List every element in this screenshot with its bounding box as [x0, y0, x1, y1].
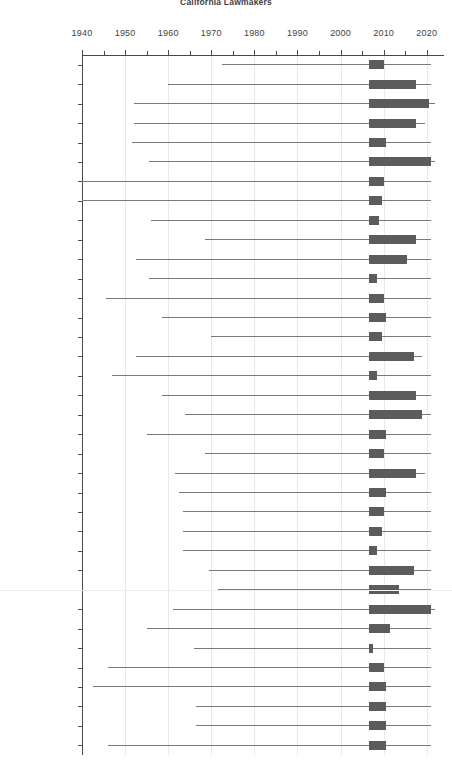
x-axis-tick-label-1950: 1950 — [105, 28, 145, 38]
box[interactable] — [369, 80, 416, 89]
chart-row[interactable]: FEUER — [0, 308, 362, 327]
chart-row[interactable]: SALAS — [0, 658, 362, 677]
chart-row[interactable]: ANDERSON — [0, 74, 362, 93]
chart-row[interactable]: PORTANTINO — [0, 599, 362, 618]
box[interactable] — [369, 507, 384, 516]
whisker — [149, 278, 431, 279]
box[interactable] — [369, 216, 380, 225]
box[interactable] — [369, 157, 431, 166]
chart-row[interactable]: JEFFRIES — [0, 502, 362, 521]
x-axis-tick-label-1970: 1970 — [191, 28, 231, 38]
box[interactable] — [369, 469, 416, 478]
x-axis-tick-label-2020: 2020 — [407, 28, 447, 38]
box[interactable] — [369, 138, 386, 147]
box[interactable] — [369, 255, 408, 264]
whisker — [112, 375, 431, 376]
box[interactable] — [369, 644, 373, 653]
box[interactable] — [369, 235, 416, 244]
chart-row[interactable]: COOK — [0, 191, 362, 210]
x-axis-tick-minor-2005 — [362, 51, 363, 55]
chart-row[interactable]: DESAULNIER — [0, 249, 362, 268]
box[interactable] — [369, 741, 386, 750]
chart-row[interactable]: GALGIANI — [0, 405, 362, 424]
whisker — [147, 434, 431, 435]
whisker — [179, 492, 431, 493]
box[interactable] — [369, 430, 386, 439]
whisker — [132, 142, 432, 143]
x-axis-tick-major-2020 — [427, 50, 428, 55]
x-axis-tick-label-2000: 2000 — [321, 28, 361, 38]
chart-row[interactable]: PRICE JR. — [0, 619, 362, 638]
chart-row[interactable]: HERNANDEZ — [0, 463, 362, 482]
whisker — [196, 725, 431, 726]
box[interactable] — [369, 99, 429, 108]
chart-row[interactable]: GARRICK — [0, 424, 362, 443]
chart-root: California Lawmakers 1940195019601970198… — [0, 0, 452, 770]
chart-row[interactable]: DUVALL — [0, 269, 362, 288]
box[interactable] — [369, 702, 386, 711]
whisker — [183, 550, 431, 551]
chart-row[interactable]: FURUTANI — [0, 366, 362, 385]
box[interactable] — [369, 352, 414, 361]
chart-row[interactable]: SOLORIO — [0, 716, 362, 735]
chart-row[interactable]: HAYASHI — [0, 444, 362, 463]
box[interactable] — [369, 721, 386, 730]
chart-row[interactable]: DAVIS — [0, 211, 362, 230]
chart-row[interactable]: BEALL — [0, 94, 362, 113]
box[interactable] — [369, 119, 416, 128]
whisker — [205, 453, 431, 454]
chart-row[interactable]: SWANSON — [0, 736, 362, 755]
whisker — [211, 336, 431, 337]
box[interactable] — [369, 274, 378, 283]
chart-row[interactable]: DE LEÓN — [0, 230, 362, 249]
box[interactable] — [369, 313, 386, 322]
chart-row[interactable]: ADAMS — [0, 55, 362, 74]
box[interactable] — [369, 410, 423, 419]
box[interactable] — [369, 391, 416, 400]
chart-row[interactable]: MENDOZA — [0, 561, 362, 580]
box[interactable] — [369, 682, 386, 691]
whisker — [222, 64, 431, 65]
horizontal-rule — [0, 590, 452, 591]
whisker — [183, 531, 431, 532]
chart-row[interactable]: BROWNLEY — [0, 133, 362, 152]
chart-row[interactable]: MA — [0, 541, 362, 560]
chart-row[interactable]: CABALLERO — [0, 152, 362, 171]
box[interactable] — [369, 488, 386, 497]
x-axis-tick-major-2010 — [384, 50, 385, 55]
box[interactable] — [369, 546, 378, 555]
whisker — [196, 706, 431, 707]
box[interactable] — [369, 566, 414, 575]
box[interactable] — [369, 60, 384, 69]
box[interactable] — [369, 177, 384, 186]
whisker — [151, 220, 431, 221]
box[interactable] — [369, 663, 384, 672]
x-axis-tick-minor-2015 — [405, 51, 406, 55]
box[interactable] — [369, 371, 378, 380]
chart-row[interactable]: ENG — [0, 288, 362, 307]
chart-row[interactable]: CARTER — [0, 172, 362, 191]
box[interactable] — [369, 624, 391, 633]
box[interactable] — [369, 605, 431, 614]
whisker — [162, 317, 431, 318]
box[interactable] — [369, 332, 382, 341]
whisker — [194, 648, 431, 649]
chart-row[interactable]: HUFFMAN — [0, 483, 362, 502]
x-axis-tick-label-1980: 1980 — [234, 28, 274, 38]
chart-row[interactable]: SMYTH — [0, 697, 362, 716]
chart-row[interactable]: FUENTES — [0, 327, 362, 346]
whisker — [183, 511, 431, 512]
chart-row[interactable]: RICHARDSON — [0, 638, 362, 657]
box[interactable] — [369, 196, 382, 205]
box[interactable] — [369, 527, 382, 536]
chart-title: California Lawmakers — [0, 0, 452, 8]
chart-row[interactable]: SILVA — [0, 677, 362, 696]
chart-row[interactable]: GAINES — [0, 386, 362, 405]
x-axis-tick-label-2010: 2010 — [364, 28, 404, 38]
chart-row[interactable]: KREKORIAN — [0, 522, 362, 541]
box[interactable] — [369, 294, 384, 303]
box[interactable] — [369, 449, 384, 458]
chart-row[interactable]: FULLER — [0, 347, 362, 366]
x-axis-tick-label-1960: 1960 — [148, 28, 188, 38]
chart-row[interactable]: BERRYHILL — [0, 113, 362, 132]
